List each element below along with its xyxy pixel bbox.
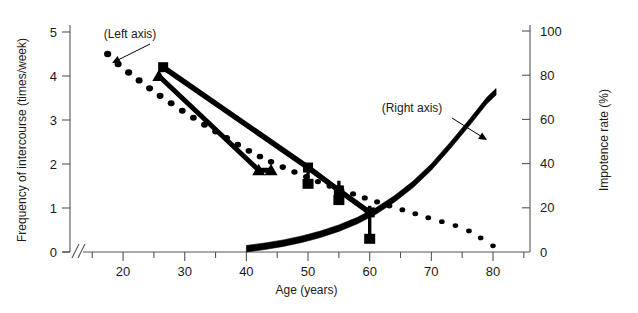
left-y-tick-label: 2	[50, 157, 57, 172]
data-point-dot	[478, 236, 484, 241]
data-point-dot	[179, 108, 186, 114]
x-tick-label: 70	[424, 264, 438, 279]
axis-break-slash-2	[78, 244, 85, 258]
series-line	[159, 76, 271, 170]
series-layer	[104, 51, 496, 252]
data-point-dot	[439, 219, 445, 224]
left-axis-callout-arrow-line	[118, 44, 150, 60]
left-y-tick-label: 1	[50, 201, 57, 216]
data-point-dot	[291, 169, 297, 175]
annotations-layer: (Left axis)(Right axis)	[104, 27, 487, 140]
right-y-tick-label: 100	[540, 24, 562, 39]
right-y-axis-title: Impotence rate (%)	[597, 89, 611, 191]
x-tick-label: 20	[116, 264, 130, 279]
data-point-dot	[280, 164, 286, 170]
series-cohort-lower-solid	[152, 70, 277, 176]
data-point-dot	[146, 85, 153, 91]
left-y-axis-title: Frequency of intercourse (times/week)	[15, 38, 29, 242]
axis-break-slash-1	[72, 244, 79, 258]
x-tick-label: 80	[486, 264, 500, 279]
left-y-tick-label: 0	[50, 245, 57, 260]
data-point-square	[158, 62, 168, 72]
data-point-dot	[136, 77, 143, 83]
data-point-dot	[374, 199, 380, 204]
error-bar-cap-square	[364, 234, 375, 244]
right-y-tick-label: 40	[540, 156, 554, 171]
data-point-dot	[168, 100, 175, 106]
data-point-dot	[466, 228, 472, 233]
data-point-dot	[157, 93, 164, 99]
right-y-tick-label: 0	[540, 245, 547, 260]
right-axis-callout-arrowhead	[478, 132, 487, 140]
right-axis-callout-arrow-line	[452, 118, 481, 136]
data-point-dot	[104, 51, 111, 57]
right-y-tick-label: 60	[540, 112, 554, 127]
axes-layer: 012345Frequency of intercourse (times/we…	[15, 24, 611, 298]
error-bar-cap-square	[333, 195, 344, 205]
data-point-dot	[399, 207, 405, 212]
right-y-tick-label: 20	[540, 200, 554, 215]
x-tick-label: 50	[301, 264, 315, 279]
x-tick-label: 30	[177, 264, 191, 279]
x-tick-label: 40	[239, 264, 253, 279]
data-point-dot	[246, 148, 253, 154]
x-axis-title: Age (years)	[275, 283, 337, 297]
series-cohort-upper-solid	[158, 62, 375, 244]
right-axis-callout-text: (Right axis)	[382, 101, 443, 115]
data-point-dot	[412, 211, 418, 216]
data-point-dot	[453, 223, 459, 228]
data-point-dot	[257, 154, 264, 160]
left-axis-callout: (Left axis)	[104, 27, 157, 63]
error-bar-cap-square	[303, 179, 314, 189]
right-y-tick-label: 80	[540, 68, 554, 83]
data-point-dot	[125, 69, 132, 75]
left-y-tick-label: 3	[50, 113, 57, 128]
data-point-dot	[425, 215, 431, 220]
data-point-dot	[190, 115, 197, 121]
data-point-dot	[362, 195, 368, 200]
left-y-tick-label: 4	[50, 69, 57, 84]
data-point-dot	[490, 243, 496, 248]
left-y-tick-label: 5	[50, 25, 57, 40]
left-axis-callout-text: (Left axis)	[104, 27, 157, 41]
x-tick-label: 60	[362, 264, 376, 279]
chart-canvas: 012345Frequency of intercourse (times/we…	[0, 0, 638, 313]
figure-panel: 012345Frequency of intercourse (times/we…	[0, 0, 638, 313]
